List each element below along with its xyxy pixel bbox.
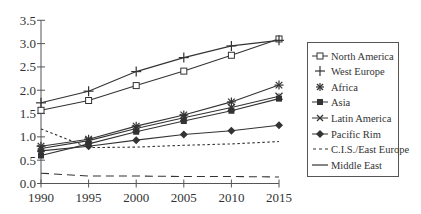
y-tick-label: 3.0 xyxy=(20,36,36,51)
series-middle-east xyxy=(41,173,279,177)
legend-label: West Europe xyxy=(331,66,385,77)
y-tick-label: 1.0 xyxy=(20,129,36,144)
y-tick-label: 2.5 xyxy=(20,59,36,74)
legend-item-north-america: North America xyxy=(312,49,394,63)
chart-series xyxy=(36,35,284,177)
legend-label: C.I.S./East Europe xyxy=(331,144,409,155)
legend-item-west-europe: West Europe xyxy=(312,64,385,78)
legend-item-africa: Africa xyxy=(312,80,358,94)
series-latin-america xyxy=(38,93,283,152)
y-tick-label: 0.5 xyxy=(20,153,36,168)
series-asia xyxy=(38,96,282,159)
legend-label: North America xyxy=(331,51,394,62)
legend-item-asia: Asia xyxy=(312,95,350,109)
legend-label: Middle East xyxy=(331,160,382,171)
x-star-marker-icon xyxy=(312,113,328,123)
chart-axes: 0.00.51.01.52.02.53.03.51990199520002005… xyxy=(20,13,292,205)
series-north-america xyxy=(38,36,282,113)
series-africa xyxy=(37,81,284,151)
chart-legend: North America West Europe Africa Asia La… xyxy=(307,42,399,177)
dashed-line-icon xyxy=(312,160,328,170)
y-tick-label: 3.5 xyxy=(20,13,36,28)
y-tick-label: 2.0 xyxy=(20,83,36,98)
x-tick-label: 1995 xyxy=(76,190,102,205)
square-open-marker-icon xyxy=(312,51,328,61)
asterisk-marker-icon xyxy=(312,82,328,92)
legend-label: Asia xyxy=(331,97,350,108)
legend-item-cis-east-europe: C.I.S./East Europe xyxy=(312,142,409,156)
diamond-filled-marker-icon xyxy=(312,129,328,139)
y-tick-label: 1.5 xyxy=(20,106,36,121)
x-tick-label: 2000 xyxy=(123,190,149,205)
legend-item-pacific-rim: Pacific Rim xyxy=(312,127,381,141)
legend-item-middle-east: Middle East xyxy=(312,158,382,172)
x-tick-label: 1990 xyxy=(28,190,54,205)
x-tick-label: 2010 xyxy=(218,190,244,205)
legend-label: Latin America xyxy=(331,113,391,124)
legend-label: Pacific Rim xyxy=(331,129,381,140)
plus-marker-icon xyxy=(312,66,328,76)
legend-item-latin-america: Latin America xyxy=(312,111,391,125)
x-tick-label: 2015 xyxy=(266,190,292,205)
legend-label: Africa xyxy=(331,82,358,93)
dotted-line-icon xyxy=(312,144,328,154)
square-filled-marker-icon xyxy=(312,97,328,107)
series-c-i-s-east-europe xyxy=(41,129,279,148)
x-tick-label: 2005 xyxy=(171,190,197,205)
